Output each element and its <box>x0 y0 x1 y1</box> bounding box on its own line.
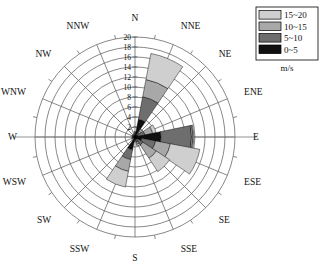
direction-label-sw: SW <box>37 215 51 225</box>
direction-label-ese: ESE <box>244 177 261 187</box>
radial-tick-label: 12 <box>124 73 132 82</box>
direction-label-ene: ENE <box>244 87 263 97</box>
direction-label-nne: NNE <box>181 21 201 31</box>
radial-tick-label: 6 <box>127 103 131 112</box>
wind-rose-svg: 2468101214161820 NNNENEENEEESESESSESSSWS… <box>0 0 324 275</box>
legend-swatch <box>259 11 281 20</box>
wind-rose-chart: 2468101214161820 NNNENEENEEESESESSESSSWS… <box>0 0 324 275</box>
direction-label-ssw: SSW <box>70 244 90 254</box>
radial-tick-label: 20 <box>124 33 132 42</box>
direction-label-nw: NW <box>35 49 51 59</box>
legend-swatch <box>259 22 281 31</box>
direction-label-w: W <box>8 132 17 142</box>
radial-tick-label: 18 <box>124 43 132 52</box>
direction-label-ne: NE <box>219 49 232 59</box>
direction-label-wsw: WSW <box>3 177 26 187</box>
legend-label: 5~10 <box>284 33 303 43</box>
radial-tick-label: 10 <box>124 83 132 92</box>
legend-swatch <box>259 34 281 43</box>
petal-group <box>106 54 199 188</box>
direction-label-se: SE <box>219 215 230 225</box>
radial-tick-label: 2 <box>127 123 131 132</box>
direction-label-nnw: NNW <box>67 21 90 31</box>
direction-label-n: N <box>132 13 139 23</box>
legend-label: 15~20 <box>284 10 307 20</box>
radial-tick-labels: 2468101214161820 <box>124 33 138 132</box>
radial-tick-label: 16 <box>124 53 132 62</box>
direction-label-sse: SSE <box>181 244 198 254</box>
radial-tick-label: 14 <box>124 63 132 72</box>
radial-tick-label: 4 <box>127 113 131 122</box>
legend-swatch <box>259 45 281 54</box>
legend-unit-label: m/s <box>280 63 294 73</box>
legend-label: 0~5 <box>284 45 298 55</box>
direction-label-wnw: WNW <box>1 87 26 97</box>
direction-label-s: S <box>132 253 137 263</box>
radial-tick-label: 8 <box>127 93 131 102</box>
legend: 15~2010~155~100~5m/s <box>256 7 318 73</box>
legend-label: 10~15 <box>284 22 307 32</box>
direction-label-e: E <box>253 132 259 142</box>
